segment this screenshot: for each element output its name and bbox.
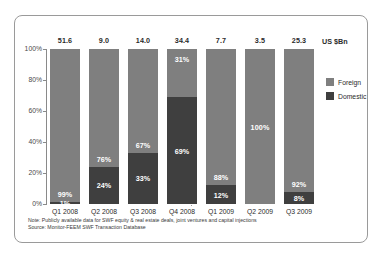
legend-item-label: Foreign: [338, 79, 361, 86]
bar-total-value: 7.7: [204, 36, 238, 45]
y-axis-tick-label: 0%: [18, 200, 42, 207]
stacked-bar[interactable]: 76%24%: [89, 49, 119, 204]
stacked-bar[interactable]: 67%33%: [128, 49, 158, 204]
bar-column[interactable]: 67%33%: [126, 49, 160, 204]
bar-segment-domestic[interactable]: 8%: [284, 192, 314, 204]
bar-column[interactable]: 76%24%: [87, 49, 121, 204]
y-axis-tick-mark: [43, 173, 47, 174]
bar-segment-label: 8%: [284, 193, 314, 202]
bar-segment-foreign[interactable]: 67%: [128, 49, 158, 153]
bar-total-value: 9.0: [87, 36, 121, 45]
y-axis-tick-mark: [43, 49, 47, 50]
footnote-line: Source: Monitor-FEEM SWF Transaction Dat…: [28, 224, 358, 231]
plot-area: 0%20%40%60%80%100%99%1%76%24%67%33%31%69…: [48, 49, 320, 204]
bar-segment-label: 100%: [245, 122, 275, 131]
legend-color-swatch: [326, 78, 334, 86]
x-axis-label: Q1 2009: [201, 208, 241, 215]
bar-total-value: 25.3: [282, 36, 316, 45]
bar-segment-label: 33%: [128, 174, 158, 183]
y-axis-tick-mark: [43, 142, 47, 143]
bar-column[interactable]: 31%69%: [165, 49, 199, 204]
y-axis-tick-label: 100%: [18, 45, 42, 52]
bar-segment-label: 92%: [284, 180, 314, 189]
y-axis-tick-label: 60%: [18, 107, 42, 114]
bar-segment-label: 69%: [167, 146, 197, 155]
stacked-bar[interactable]: 88%12%: [206, 49, 236, 204]
bar-segment-label: 12%: [206, 190, 236, 199]
y-axis-tick-mark: [43, 204, 47, 205]
stacked-bar[interactable]: 92%8%: [284, 49, 314, 204]
y-axis-tick-label: 40%: [18, 138, 42, 145]
unit-label: US $Bn: [322, 37, 348, 46]
bar-segment-foreign[interactable]: 31%: [167, 49, 197, 97]
stacked-bar[interactable]: 31%69%: [167, 49, 197, 204]
y-axis-line: [46, 49, 47, 204]
x-axis-label: Q1 2008: [45, 208, 85, 215]
bar-segment-foreign[interactable]: 88%: [206, 49, 236, 185]
bar-segment-domestic[interactable]: 33%: [128, 153, 158, 204]
stacked-bar[interactable]: 100%: [245, 49, 275, 204]
x-axis-label: Q2 2009: [240, 208, 280, 215]
bar-totals-row: 51.69.014.034.47.73.525.3: [48, 36, 320, 47]
bar-segment-domestic[interactable]: 69%: [167, 97, 197, 204]
bar-column[interactable]: 99%1%: [48, 49, 82, 204]
legend-item[interactable]: Foreign: [326, 78, 382, 86]
y-axis-tick-label: 80%: [18, 76, 42, 83]
bar-segment-foreign[interactable]: 76%: [89, 49, 119, 167]
footnote-line: Note: Publicly available data for SWF eq…: [28, 217, 358, 224]
chart-panel: 51.69.014.034.47.73.525.3 US $Bn 0%20%40…: [14, 15, 368, 243]
stacked-bar[interactable]: 99%1%: [50, 49, 80, 204]
bar-segment-foreign[interactable]: 100%: [245, 49, 275, 204]
y-axis-tick-mark: [43, 80, 47, 81]
bar-segment-domestic[interactable]: 1%: [50, 202, 80, 204]
bar-total-value: 51.6: [48, 36, 82, 45]
bar-segment-label: 88%: [206, 173, 236, 182]
bar-column[interactable]: 88%12%: [204, 49, 238, 204]
bar-total-value: 3.5: [243, 36, 277, 45]
bar-segment-label: 31%: [167, 55, 197, 64]
chart-footnotes: Note: Publicly available data for SWF eq…: [28, 217, 358, 231]
bar-segment-foreign[interactable]: 99%: [50, 49, 80, 202]
y-axis-tick-label: 20%: [18, 169, 42, 176]
bar-segment-label: 67%: [128, 141, 158, 150]
legend-color-swatch: [326, 92, 334, 100]
bar-segment-label: 24%: [89, 181, 119, 190]
legend-item-label: Domestic: [338, 93, 366, 100]
chart-legend: ForeignDomestic: [326, 78, 382, 106]
bar-column[interactable]: 100%: [243, 49, 277, 204]
bar-segment-domestic[interactable]: 24%: [89, 167, 119, 204]
legend-item[interactable]: Domestic: [326, 92, 382, 100]
y-axis-tick-mark: [43, 111, 47, 112]
bar-segment-label: 76%: [89, 155, 119, 164]
bar-segment-label: 1%: [50, 199, 80, 208]
bar-total-value: 34.4: [165, 36, 199, 45]
bar-column[interactable]: 92%8%: [282, 49, 316, 204]
x-axis-label: Q4 2008: [162, 208, 202, 215]
x-axis-label: Q3 2009: [279, 208, 319, 215]
bar-segment-domestic[interactable]: 12%: [206, 185, 236, 204]
x-axis-label: Q3 2008: [123, 208, 163, 215]
x-axis-label: Q2 2008: [84, 208, 124, 215]
bar-total-value: 14.0: [126, 36, 160, 45]
bar-segment-foreign[interactable]: 92%: [284, 49, 314, 192]
